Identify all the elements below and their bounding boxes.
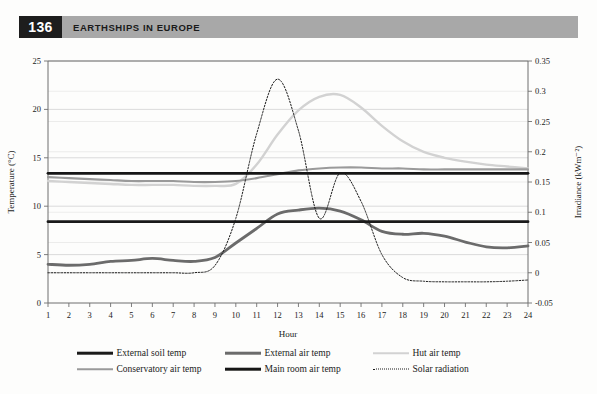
legend-swatch-icon-solar-radiation xyxy=(373,364,409,374)
legend-label-conservatory-air-temp: Conservatory air temp xyxy=(117,364,202,374)
legend-label-main-room-air-temp: Main room air temp xyxy=(265,364,341,374)
running-head-title: EARTHSHIPS IN EUROPE xyxy=(62,16,578,38)
legend-item-conservatory-air-temp: Conservatory air temp xyxy=(77,364,225,374)
x-tick-label: 18 xyxy=(399,310,408,320)
line-chart-svg: 123456789101112131415161718192021222324 … xyxy=(0,46,597,346)
legend-item-external-air-temp: External air temp xyxy=(225,348,373,358)
x-tick-label: 6 xyxy=(150,310,154,320)
chart-gridlines xyxy=(48,61,528,273)
y-right-tick-label: 0 xyxy=(535,268,539,278)
legend-row-1: External soil temp External air temp Hut… xyxy=(0,345,597,361)
y-left-tick-label: 25 xyxy=(33,56,42,66)
page-canvas: 136 EARTHSHIPS IN EUROPE 123456789101112… xyxy=(0,0,597,394)
y-left-tick-label: 15 xyxy=(33,153,42,163)
legend-label-solar-radiation: Solar radiation xyxy=(413,364,469,374)
chart-legend: External soil temp External air temp Hut… xyxy=(0,345,597,387)
x-tick-label: 7 xyxy=(171,310,175,320)
x-tick-label: 8 xyxy=(192,310,196,320)
series-line-conservatory-air-temp xyxy=(48,167,528,182)
x-tick-label: 4 xyxy=(108,310,113,320)
y-left-tick-label: 0 xyxy=(37,298,41,308)
legend-label-external-air-temp: External air temp xyxy=(265,348,331,358)
legend-swatch-icon-main-room-air-temp xyxy=(225,364,261,374)
x-axis-title: Hour xyxy=(279,329,298,339)
x-tick-label: 3 xyxy=(88,310,92,320)
x-tick-label: 24 xyxy=(524,310,533,320)
x-tick-label: 17 xyxy=(378,310,387,320)
x-tick-label: 20 xyxy=(440,310,449,320)
y-right-tick-label: 0.35 xyxy=(535,56,550,66)
page-folio-number: 136 xyxy=(19,16,62,38)
x-tick-label: 16 xyxy=(357,310,366,320)
legend-label-external-soil-temp: External soil temp xyxy=(117,348,187,358)
x-tick-label: 19 xyxy=(419,310,428,320)
y-left-tick-label: 5 xyxy=(37,250,41,260)
y-axis-right-title: Irradiance (kWm⁻²) xyxy=(573,146,583,218)
x-tick-label: 1 xyxy=(46,310,50,320)
legend-label-hut-air-temp: Hut air temp xyxy=(413,348,461,358)
y-right-tick-label: 0.25 xyxy=(535,117,550,127)
x-tick-label: 5 xyxy=(129,310,133,320)
x-tick-label: 9 xyxy=(213,310,217,320)
series-line-external-air-temp xyxy=(48,208,528,265)
x-tick-label: 22 xyxy=(482,310,491,320)
x-tick-label: 10 xyxy=(232,310,241,320)
legend-item-main-room-air-temp: Main room air temp xyxy=(225,364,373,374)
y-left-tick-label: 10 xyxy=(33,201,42,211)
y-right-tick-label: 0.2 xyxy=(535,147,546,157)
x-tick-label: 12 xyxy=(273,310,282,320)
legend-row-2: Conservatory air temp Main room air temp… xyxy=(0,361,597,377)
legend-item-external-soil-temp: External soil temp xyxy=(77,348,225,358)
x-tick-label: 14 xyxy=(315,310,324,320)
legend-swatch-icon-conservatory-air-temp xyxy=(77,364,113,374)
legend-item-hut-air-temp: Hut air temp xyxy=(373,348,521,358)
y-right-tick-label: -0.05 xyxy=(535,298,553,308)
legend-item-solar-radiation: Solar radiation xyxy=(373,364,521,374)
y-right-tick-label: 0.3 xyxy=(535,86,546,96)
chart-x-axis-ticks: 123456789101112131415161718192021222324 xyxy=(46,303,533,320)
legend-swatch-icon-external-air-temp xyxy=(225,348,261,358)
running-head: 136 EARTHSHIPS IN EUROPE xyxy=(19,16,578,38)
x-tick-label: 2 xyxy=(67,310,71,320)
y-right-tick-label: 0.1 xyxy=(535,207,546,217)
y-left-tick-label: 20 xyxy=(33,104,42,114)
y-right-tick-label: 0.15 xyxy=(535,177,550,187)
chart-y-axis-left-ticks: 0510152025 xyxy=(33,56,49,308)
legend-swatch-icon-hut-air-temp xyxy=(373,348,409,358)
y-axis-left-title: Temperature (°C) xyxy=(6,150,16,213)
figure-chart: 123456789101112131415161718192021222324 … xyxy=(0,46,597,346)
x-tick-label: 13 xyxy=(294,310,303,320)
x-tick-label: 11 xyxy=(253,310,261,320)
x-tick-label: 23 xyxy=(503,310,512,320)
x-tick-label: 21 xyxy=(461,310,470,320)
chart-y-axis-right-ticks: -0.0500.050.10.150.20.250.30.35 xyxy=(528,56,553,308)
y-right-tick-label: 0.05 xyxy=(535,238,550,248)
x-tick-label: 15 xyxy=(336,310,345,320)
legend-swatch-icon-external-soil-temp xyxy=(77,348,113,358)
